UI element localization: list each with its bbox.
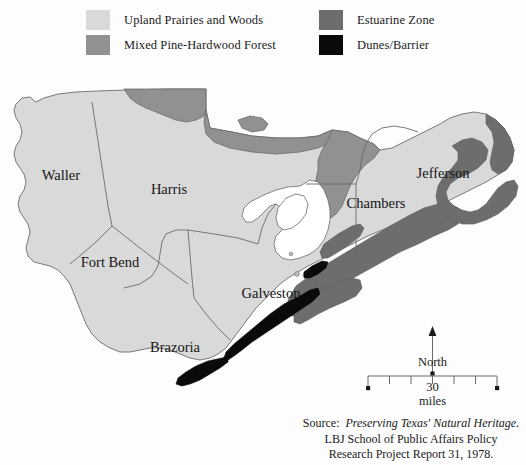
legend-label-forest: Mixed Pine-Hardwood Forest xyxy=(124,38,276,53)
source-line-1: Source: Preserving Texas' Natural Herita… xyxy=(296,416,526,432)
county-label-fort-bend: Fort Bend xyxy=(81,254,140,270)
north-arrow-and-scale: North 30 miles xyxy=(360,322,505,412)
map-legend: Upland Prairies and Woods Mixed Pine-Har… xyxy=(0,0,526,58)
source-title: Preserving Texas' Natural Heritage. xyxy=(345,416,519,430)
source-line-3: Research Project Report 31, 1978. xyxy=(296,447,526,463)
legend-swatch-dunes xyxy=(319,35,343,55)
legend-label-dunes: Dunes/Barrier xyxy=(357,38,429,53)
legend-item-dunes-barrier: Dunes/Barrier xyxy=(319,35,429,55)
north-label: North xyxy=(360,355,505,370)
legend-label-upland: Upland Prairies and Woods xyxy=(124,13,263,28)
region-forest-bay-nub xyxy=(238,116,268,132)
legend-item-upland-prairies-and-woods: Upland Prairies and Woods xyxy=(86,10,263,30)
county-label-harris: Harris xyxy=(151,181,188,197)
county-label-waller: Waller xyxy=(42,167,80,183)
legend-item-estuarine-zone: Estuarine Zone xyxy=(319,10,434,30)
county-label-jefferson: Jefferson xyxy=(417,165,471,181)
county-label-brazoria: Brazoria xyxy=(150,339,200,355)
bay-islet-3 xyxy=(289,252,293,256)
legend-swatch-estuarine xyxy=(319,10,343,30)
source-line-2: LBJ School of Public Affairs Policy xyxy=(296,432,526,448)
scale-unit-label: miles xyxy=(360,394,505,409)
region-dunes-follets-island xyxy=(176,356,228,386)
source-prefix: Source: xyxy=(303,416,340,430)
legend-label-estuarine: Estuarine Zone xyxy=(357,13,434,28)
county-label-galveston: Galveston xyxy=(242,285,302,301)
county-label-chambers: Chambers xyxy=(347,195,406,211)
scale-value-label: 30 xyxy=(360,380,505,395)
map-figure: Upland Prairies and Woods Mixed Pine-Har… xyxy=(0,0,526,465)
legend-swatch-upland xyxy=(86,10,110,30)
legend-item-mixed-pine-hardwood-forest: Mixed Pine-Hardwood Forest xyxy=(86,35,276,55)
bay-islet-1 xyxy=(295,272,300,277)
source-credit: Source: Preserving Texas' Natural Herita… xyxy=(296,416,526,463)
legend-swatch-forest xyxy=(86,35,110,55)
